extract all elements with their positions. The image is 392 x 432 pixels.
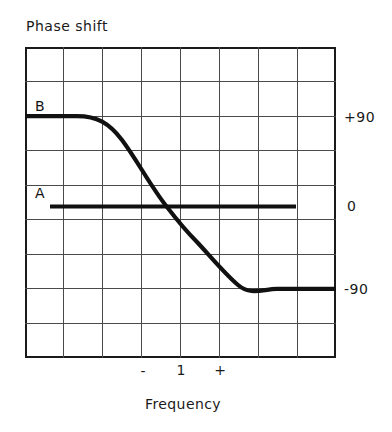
- y-tick-label-plus-90: +90: [344, 110, 375, 124]
- plot-area: B A: [25, 47, 336, 358]
- y-tick-label-minus-90: -90: [344, 282, 368, 296]
- y-tick-label-zero: 0: [347, 199, 356, 213]
- x-tick-label-one: 1: [170, 363, 192, 377]
- chart-title: Phase shift: [26, 18, 108, 34]
- phase-shift-chart-figure: Phase shift: [0, 0, 392, 432]
- data-curves: [25, 47, 336, 358]
- x-tick-label-plus: +: [209, 363, 231, 377]
- x-axis-title: Frequency: [0, 396, 366, 412]
- curve-series-b: [25, 116, 336, 291]
- series-label-b: B: [35, 99, 45, 113]
- x-tick-label-minus: -: [132, 364, 154, 378]
- series-label-a: A: [35, 186, 45, 200]
